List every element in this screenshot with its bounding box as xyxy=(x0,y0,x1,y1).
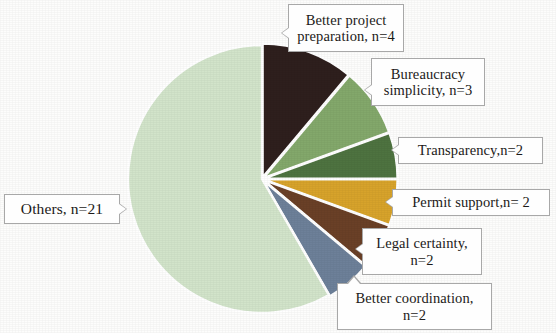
callout-tail-others xyxy=(119,204,126,214)
callout-tail-legal-certainty xyxy=(356,244,363,254)
callout-label-better-project-preparation: Better project preparation, n=4 xyxy=(297,12,395,44)
callout-tail-better-coordination xyxy=(348,277,360,284)
callout-better-project-preparation: Better project preparation, n=4 xyxy=(288,4,404,52)
callout-label-better-coordination: Better coordination, n=2 xyxy=(356,290,474,322)
callout-label-legal-certainty: Legal certainty, n=2 xyxy=(376,235,468,267)
callout-label-transparency: Transparency,n=2 xyxy=(418,142,523,158)
callout-tail-permit-support xyxy=(386,197,393,207)
callout-tail-bureaucracy-simplicity xyxy=(365,85,372,95)
callout-transparency: Transparency,n=2 xyxy=(398,137,543,164)
callout-tail-transparency xyxy=(392,145,399,155)
callout-permit-support: Permit support,n= 2 xyxy=(392,189,550,216)
callout-label-permit-support: Permit support,n= 2 xyxy=(412,194,530,210)
callout-label-others: Others, n=21 xyxy=(21,200,103,217)
callout-others: Others, n=21 xyxy=(4,194,120,224)
pie-chart-figure: Better project preparation, n=4 Bureaucr… xyxy=(0,0,556,333)
callout-better-coordination: Better coordination, n=2 xyxy=(337,283,492,330)
pie-slices-group xyxy=(128,44,398,313)
callout-label-bureaucracy-simplicity: Bureaucracy simplicity, n=3 xyxy=(384,66,473,98)
callout-legal-certainty: Legal certainty, n=2 xyxy=(362,228,482,275)
callout-bureaucracy-simplicity: Bureaucracy simplicity, n=3 xyxy=(371,58,485,106)
callout-tail-better-project-preparation xyxy=(282,28,289,38)
